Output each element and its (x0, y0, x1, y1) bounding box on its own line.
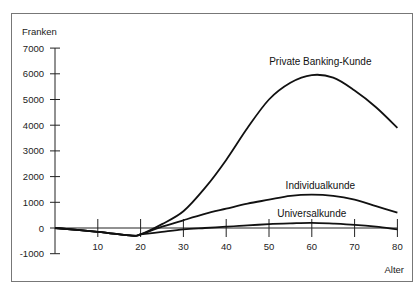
x-tick-label: 80 (392, 241, 403, 252)
y-tick-label: 6000 (23, 68, 44, 79)
series-label-1: Individualkunde (286, 180, 356, 191)
x-axis-label: Alter (384, 264, 404, 275)
x-tick-label: 40 (221, 241, 232, 252)
x-tick-label: 70 (349, 241, 360, 252)
x-tick-label: 20 (135, 241, 146, 252)
x-tick-label: 60 (307, 241, 318, 252)
axes: 70006000500040003000200010000-1000102030… (20, 43, 403, 260)
y-tick-label: 4000 (23, 120, 44, 131)
x-tick-label: 50 (264, 241, 275, 252)
y-axis-label: Franken (22, 26, 57, 37)
y-tick-label: 5000 (23, 94, 44, 105)
y-tick-label: 3000 (23, 145, 44, 156)
y-tick-label: 2000 (23, 171, 44, 182)
x-tick-label: 30 (178, 241, 189, 252)
y-tick-label: 0 (39, 223, 44, 234)
x-tick-label: 10 (93, 241, 104, 252)
y-tick-label: -1000 (20, 248, 44, 259)
series-label-2: Universalkunde (277, 208, 346, 219)
y-tick-label: 7000 (23, 43, 44, 54)
series-label-0: Private Banking-Kunde (269, 56, 372, 67)
line-chart: 70006000500040003000200010000-1000102030… (0, 0, 420, 294)
y-tick-label: 1000 (23, 197, 44, 208)
